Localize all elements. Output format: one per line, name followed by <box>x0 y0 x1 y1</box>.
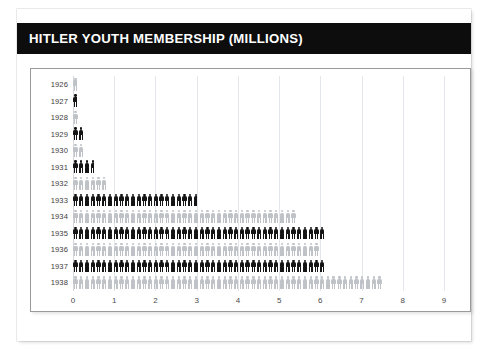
person-icon <box>130 227 135 240</box>
bar-row <box>73 126 85 143</box>
person-icon <box>228 260 233 273</box>
page-title: HITLER YOUTH MEMBERSHIP (MILLIONS) <box>17 31 303 46</box>
person-icon <box>262 210 267 223</box>
person-icon <box>148 276 153 289</box>
x-axis-labels: 0123456789 <box>73 296 444 310</box>
person-icon <box>176 210 181 223</box>
person-icon <box>176 194 181 207</box>
person-icon <box>113 210 118 223</box>
person-icon <box>182 260 187 273</box>
person-icon <box>159 260 164 273</box>
person-icon <box>291 260 296 273</box>
person-icon <box>320 227 325 240</box>
person-icon <box>119 227 124 240</box>
person-icon <box>291 210 296 223</box>
bar-row <box>73 93 77 110</box>
person-icon <box>314 260 319 273</box>
person-icon <box>314 243 319 256</box>
y-axis-label-1936: 1936 <box>30 245 68 254</box>
bar-row <box>73 175 110 192</box>
person-icon <box>234 243 239 256</box>
person-icon <box>148 194 153 207</box>
person-icon <box>142 227 147 240</box>
person-icon <box>79 243 84 256</box>
person-icon <box>113 243 118 256</box>
person-icon <box>102 276 107 289</box>
person-icon <box>285 260 290 273</box>
person-icon <box>96 194 101 207</box>
person-icon <box>234 227 239 240</box>
person-icon <box>90 260 95 273</box>
bar-row <box>73 225 324 242</box>
y-axis-label-1927: 1927 <box>30 97 68 106</box>
y-axis-label-1929: 1929 <box>30 130 68 139</box>
person-icon <box>102 210 107 223</box>
person-icon <box>228 276 233 289</box>
person-icon <box>142 260 147 273</box>
person-icon <box>73 127 78 140</box>
person-icon <box>119 243 124 256</box>
person-icon <box>222 260 227 273</box>
person-icon <box>348 276 353 289</box>
person-icon <box>170 227 175 240</box>
y-axis-label-1934: 1934 <box>30 212 68 221</box>
person-icon <box>73 111 78 124</box>
person-icon <box>193 276 198 289</box>
bar-row <box>73 109 81 126</box>
person-icon <box>102 227 107 240</box>
person-icon <box>96 243 101 256</box>
person-icon <box>257 260 262 273</box>
x-axis-tick-7: 7 <box>359 296 363 305</box>
bar-row <box>73 241 322 258</box>
person-icon <box>113 227 118 240</box>
person-icon <box>79 144 84 157</box>
person-icon <box>119 210 124 223</box>
person-icon <box>142 243 147 256</box>
person-icon <box>96 260 101 273</box>
x-axis-tick-2: 2 <box>153 296 157 305</box>
person-icon <box>251 276 256 289</box>
person-icon <box>188 194 193 207</box>
y-axis-label-1932: 1932 <box>30 179 68 188</box>
person-icon <box>268 227 273 240</box>
person-icon <box>245 227 250 240</box>
x-axis-tick-8: 8 <box>401 296 405 305</box>
person-icon <box>125 276 130 289</box>
person-icon <box>148 243 153 256</box>
person-icon <box>119 276 124 289</box>
person-icon <box>73 78 77 91</box>
person-icon <box>211 243 216 256</box>
x-axis-tick-6: 6 <box>318 296 322 305</box>
person-icon <box>73 177 78 190</box>
y-axis-label-1931: 1931 <box>30 163 68 172</box>
person-icon <box>113 276 118 289</box>
person-icon <box>130 194 135 207</box>
person-icon <box>153 276 158 289</box>
person-icon <box>285 227 290 240</box>
person-icon <box>73 260 78 273</box>
person-icon <box>308 243 313 256</box>
person-icon <box>79 127 84 140</box>
plot-area <box>73 76 444 291</box>
person-icon <box>170 260 175 273</box>
person-icon <box>142 194 147 207</box>
person-icon <box>216 276 221 289</box>
person-icon <box>165 194 170 207</box>
x-axis-tick-3: 3 <box>194 296 198 305</box>
y-axis-label-1938: 1938 <box>30 278 68 287</box>
person-icon <box>130 210 135 223</box>
person-icon <box>107 194 112 207</box>
person-icon <box>199 276 204 289</box>
person-icon <box>251 227 256 240</box>
person-icon <box>211 260 216 273</box>
person-icon <box>153 260 158 273</box>
person-icon <box>222 243 227 256</box>
person-icon <box>176 260 181 273</box>
person-icon <box>193 210 198 223</box>
gridline-x-9 <box>444 76 445 291</box>
person-icon <box>297 243 302 256</box>
person-icon <box>245 276 250 289</box>
person-icon <box>90 210 95 223</box>
person-icon <box>130 260 135 273</box>
person-icon <box>239 243 244 256</box>
